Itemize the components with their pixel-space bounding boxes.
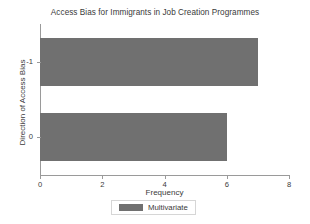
bar-0 — [40, 113, 227, 161]
legend-label: Multivariate — [148, 203, 188, 212]
bar-chart: Access Bias for Immigrants in Job Creati… — [0, 0, 310, 224]
chart-legend: Multivariate — [111, 200, 196, 215]
chart-title: Access Bias for Immigrants in Job Creati… — [0, 8, 310, 17]
x-tick-label: 2 — [92, 180, 112, 189]
plot-area — [40, 24, 289, 175]
x-tick-mark — [227, 175, 228, 179]
x-axis-title: Frequency — [40, 188, 289, 197]
y-tick-mark — [37, 62, 41, 63]
y-tick-label: -1 — [0, 57, 33, 66]
legend-swatch-icon — [119, 204, 143, 211]
x-tick-mark — [40, 175, 41, 179]
x-tick-mark — [165, 175, 166, 179]
y-tick-mark — [37, 137, 41, 138]
x-tick-label: 4 — [155, 180, 175, 189]
x-tick-label: 6 — [217, 180, 237, 189]
x-tick-mark — [102, 175, 103, 179]
x-tick-mark — [289, 175, 290, 179]
x-tick-label: 0 — [30, 180, 50, 189]
bar--1 — [40, 38, 258, 86]
y-tick-label: 0 — [0, 132, 33, 141]
legend-item[interactable]: Multivariate — [119, 203, 188, 212]
x-tick-label: 8 — [279, 180, 299, 189]
